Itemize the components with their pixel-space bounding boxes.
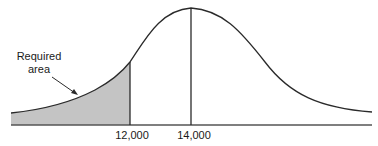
tick-label-12000: 12,000 [112, 129, 152, 142]
annotation-label: Required area [14, 50, 64, 76]
annotation-arrow [52, 77, 75, 93]
annotation-line1: Required [14, 50, 64, 63]
arrow-head-icon [71, 89, 78, 95]
tick-label-14000: 14,000 [174, 129, 214, 142]
annotation-line2: area [14, 63, 64, 76]
